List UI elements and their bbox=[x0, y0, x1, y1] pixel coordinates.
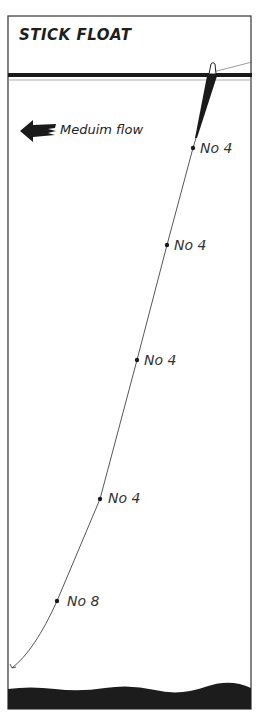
fishing-line bbox=[12, 138, 196, 668]
diagram-title: STICK FLOAT bbox=[19, 26, 131, 44]
frame bbox=[8, 16, 251, 709]
shot-label: No 4 bbox=[144, 352, 176, 368]
stick-float-diagram: STICK FLOAT Meduim flow No 4 No 4 No 4 N… bbox=[0, 0, 266, 718]
shot-dot bbox=[98, 497, 102, 501]
shot-label: No 4 bbox=[200, 140, 232, 156]
shot-dot bbox=[191, 146, 195, 150]
shot-dot bbox=[55, 599, 59, 603]
arrow-left-icon bbox=[20, 120, 56, 142]
shot-dot bbox=[135, 358, 139, 362]
shot-label: No 8 bbox=[67, 593, 99, 609]
shot-label: No 4 bbox=[108, 490, 140, 506]
riverbed bbox=[8, 683, 251, 709]
rod-line bbox=[213, 62, 252, 72]
shot-dot bbox=[165, 243, 169, 247]
shot-label: No 4 bbox=[174, 237, 206, 253]
flow-label: Meduim flow bbox=[60, 122, 143, 137]
diagram-canvas bbox=[0, 0, 266, 718]
